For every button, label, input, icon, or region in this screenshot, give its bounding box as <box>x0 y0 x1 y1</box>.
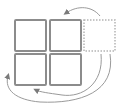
cell-top-left <box>15 20 46 51</box>
cell-ghost-dashed <box>84 20 115 51</box>
grid-move-icon <box>0 0 118 105</box>
grid-rearrange-diagram <box>0 0 118 105</box>
cell-bottom-right <box>50 54 81 85</box>
cell-bottom-left <box>15 54 46 85</box>
cell-top-right <box>50 20 81 51</box>
arrow-top-icon <box>66 8 100 16</box>
